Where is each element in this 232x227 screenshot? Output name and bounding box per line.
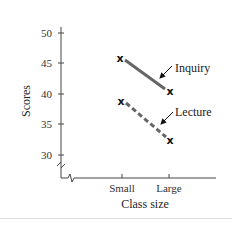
x-tick-label: Large <box>156 182 182 194</box>
inquiry-label: Inquiry <box>175 61 210 75</box>
lecture-line <box>126 103 166 137</box>
y-tick-label: 30 <box>41 149 53 161</box>
inquiry-marker-large: x <box>166 85 173 98</box>
x-axis-title: Class size <box>121 197 169 211</box>
y-axis-break <box>57 162 65 168</box>
inquiry-arrow <box>160 66 172 78</box>
y-tick-label: 45 <box>41 57 53 69</box>
x-axis-break <box>68 174 74 182</box>
lecture-marker-small: x <box>117 95 124 108</box>
divider <box>0 218 232 219</box>
y-tick-label: 40 <box>41 88 53 100</box>
inquiry-marker-small: x <box>116 52 123 65</box>
lecture-marker-large: x <box>166 134 173 147</box>
inquiry-line <box>125 60 165 89</box>
y-axis-title: Scores <box>19 85 33 117</box>
lecture-arrow <box>161 112 173 124</box>
y-tick-label: 50 <box>41 27 53 39</box>
y-tick-label: 35 <box>41 118 53 130</box>
x-tick-label: Small <box>109 182 135 194</box>
line-chart: 50 45 40 35 30 Scores Small Large Class … <box>0 0 232 227</box>
lecture-label: Lecture <box>175 105 212 119</box>
